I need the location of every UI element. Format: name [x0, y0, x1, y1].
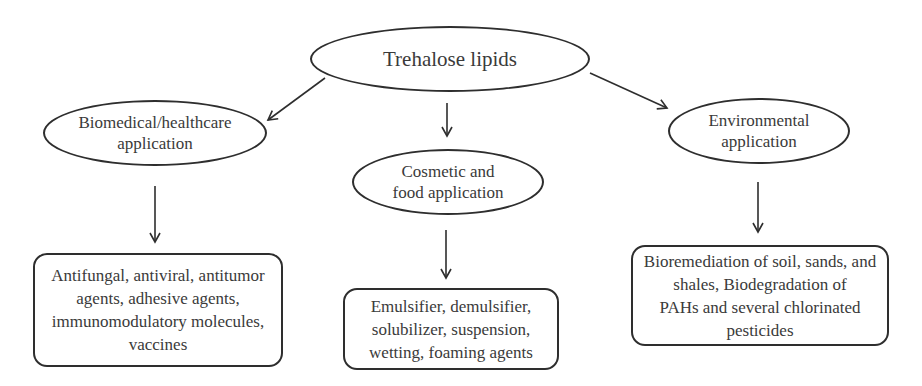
category-node-cosmetic-food: Cosmetic and food application	[352, 149, 544, 215]
details-line: agents, adhesive agents,	[76, 287, 239, 310]
category-label-line1: Biomedical/healthcare	[79, 112, 232, 133]
details-line: shales, Biodegradation of	[673, 273, 846, 296]
details-line: vaccines	[129, 333, 188, 356]
details-line: Bioremediation of soil, sands, and	[644, 250, 876, 273]
details-line: pesticides	[726, 319, 793, 342]
details-line: immunomodulatory molecules,	[52, 310, 264, 333]
arrow-root-to-biomedical	[268, 78, 325, 120]
details-line: Antifungal, antiviral, antitumor	[51, 264, 264, 287]
root-label: Trehalose lipids	[383, 47, 517, 72]
category-label-line1: Environmental	[708, 110, 809, 131]
category-label-line2: application	[117, 133, 193, 154]
details-box-biomedical: Antifungal, antiviral, antitumor agents,…	[33, 253, 283, 367]
details-box-cosmetic-food: Emulsifier, demulsifier, solubilizer, su…	[343, 288, 559, 370]
details-box-environmental: Bioremediation of soil, sands, and shale…	[631, 245, 889, 346]
details-line: PAHs and several chlorinated	[660, 296, 861, 319]
arrow-root-to-environmental	[590, 73, 667, 108]
details-line: wetting, foaming agents	[369, 341, 533, 364]
category-node-biomedical: Biomedical/healthcare application	[43, 100, 267, 166]
details-line: solubilizer, suspension,	[372, 318, 530, 341]
category-label-line1: Cosmetic and	[401, 161, 494, 182]
details-line: Emulsifier, demulsifier,	[371, 295, 532, 318]
category-label-line2: food application	[393, 182, 504, 203]
category-node-environmental: Environmental application	[668, 98, 850, 164]
root-node-trehalose-lipids: Trehalose lipids	[310, 26, 590, 92]
category-label-line2: application	[721, 131, 797, 152]
